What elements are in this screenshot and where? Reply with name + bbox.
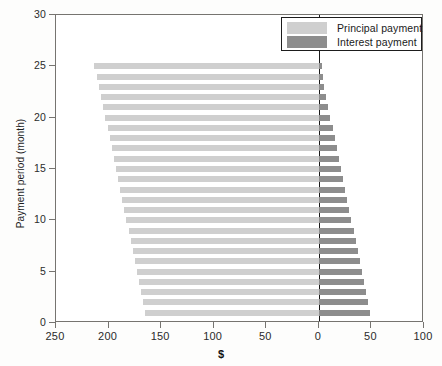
bar-principal — [124, 207, 319, 213]
y-axis-tick — [49, 168, 55, 169]
bar-principal — [143, 299, 319, 305]
bar-interest — [319, 115, 331, 121]
x-axis-tick-label: 100 — [193, 330, 233, 342]
x-axis-tick — [265, 322, 266, 328]
legend-label-interest: Interest payment — [337, 36, 417, 48]
bar-principal — [110, 135, 319, 141]
bar-interest — [319, 258, 360, 264]
bar-principal — [129, 228, 319, 234]
x-axis-tick-label: 100 — [403, 330, 442, 342]
y-axis-tick — [49, 14, 55, 15]
bar-interest — [319, 94, 326, 100]
bar-principal — [133, 248, 319, 254]
x-axis-tick-label: 50 — [245, 330, 285, 342]
bar-interest — [319, 299, 368, 305]
x-axis-tick — [55, 322, 56, 328]
bar-interest — [319, 187, 345, 193]
bar-principal — [103, 104, 319, 110]
bar-principal — [141, 289, 319, 295]
bar-principal — [101, 94, 319, 100]
x-axis-tick-label: 150 — [140, 330, 180, 342]
bar-interest — [319, 228, 354, 234]
x-axis-tick-label: 250 — [35, 330, 75, 342]
bar-principal — [137, 269, 319, 275]
bar-interest — [319, 63, 322, 69]
y-axis-title: Payment period (month) — [15, 84, 26, 264]
y-axis-tick — [49, 271, 55, 272]
y-axis-tick — [49, 65, 55, 66]
y-axis-tick-label: 25 — [14, 59, 46, 71]
bar-principal — [108, 125, 319, 131]
x-axis-tick-label: 200 — [88, 330, 128, 342]
y-axis-tick-label: 0 — [14, 316, 46, 328]
x-axis-tick — [213, 322, 214, 328]
bar-interest — [319, 135, 335, 141]
y-axis-tick — [49, 219, 55, 220]
bar-interest — [319, 238, 356, 244]
legend-item-interest: Interest payment — [287, 35, 417, 48]
y-axis-tick-label: 30 — [14, 8, 46, 20]
plot-area — [55, 14, 423, 322]
legend-swatch-interest-icon — [287, 36, 327, 48]
bar-principal — [116, 166, 319, 172]
bar-principal — [139, 279, 319, 285]
bar-interest — [319, 156, 339, 162]
y-axis-tick — [49, 117, 55, 118]
x-axis-title: $ — [0, 348, 442, 360]
bar-principal — [99, 84, 319, 90]
bar-interest — [319, 125, 333, 131]
bar-principal — [126, 217, 318, 223]
bar-principal — [94, 63, 319, 69]
legend-swatch-principal-icon — [287, 22, 327, 34]
bar-principal — [97, 74, 319, 80]
bar-interest — [319, 176, 343, 182]
bar-principal — [135, 258, 319, 264]
x-axis-tick — [108, 322, 109, 328]
bar-interest — [319, 248, 358, 254]
legend-item-principal: Principal payment — [287, 21, 422, 34]
bar-interest — [319, 289, 366, 295]
bar-interest — [319, 84, 324, 90]
legend: Principal payment Interest payment — [281, 17, 422, 51]
bar-principal — [105, 115, 318, 121]
bar-principal — [112, 145, 319, 151]
x-axis-tick — [160, 322, 161, 328]
x-axis-tick-label: 50 — [350, 330, 390, 342]
bar-principal — [122, 197, 319, 203]
x-axis-tick — [318, 322, 319, 328]
bar-principal — [114, 156, 319, 162]
bar-interest — [319, 166, 341, 172]
bar-interest — [319, 74, 323, 80]
y-axis-tick-label: 5 — [14, 265, 46, 277]
bar-interest — [319, 269, 362, 275]
bar-principal — [131, 238, 319, 244]
bar-interest — [319, 217, 352, 223]
bar-interest — [319, 197, 347, 203]
amortization-chart: 051015202530 Payment period (month) 2502… — [0, 0, 442, 366]
bar-interest — [319, 279, 364, 285]
bar-interest — [319, 310, 371, 316]
legend-label-principal: Principal payment — [337, 22, 422, 34]
bar-interest — [319, 104, 328, 110]
bar-principal — [118, 176, 319, 182]
bar-principal — [120, 187, 319, 193]
bar-interest — [319, 145, 337, 151]
bar-principal — [145, 310, 318, 316]
x-axis-tick — [370, 322, 371, 328]
x-axis-tick — [423, 322, 424, 328]
bar-interest — [319, 207, 349, 213]
x-axis-tick-label: 0 — [298, 330, 338, 342]
